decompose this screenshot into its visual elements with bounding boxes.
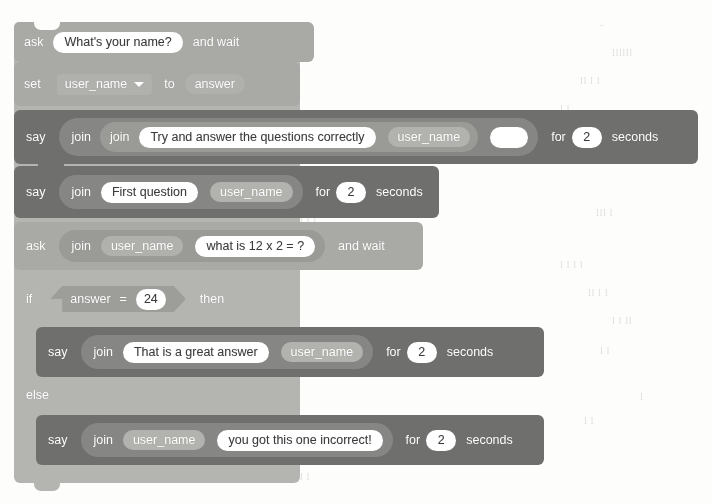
scratch-script-canvas: ask What's your name? and wait set user_… bbox=[0, 0, 712, 503]
user-name-reporter[interactable]: user_name bbox=[388, 127, 471, 147]
join-inner-keyword: join bbox=[110, 130, 129, 144]
variable-dropdown[interactable]: user_name bbox=[57, 74, 153, 95]
if-keyword: if bbox=[14, 292, 38, 306]
say-keyword: say bbox=[14, 185, 51, 199]
user-name-reporter[interactable]: user_name bbox=[123, 430, 206, 450]
ask-maths-text-input[interactable]: what is 12 x 2 = ? bbox=[195, 236, 315, 257]
say-correct-text-input[interactable]: That is a great answer bbox=[123, 342, 269, 363]
set-keyword: set bbox=[14, 77, 47, 91]
say-intro-duration-input[interactable]: 2 bbox=[572, 127, 602, 148]
say-keyword: say bbox=[36, 345, 73, 359]
ask-keyword: ask bbox=[14, 239, 51, 253]
block-if-else-header[interactable]: if answer = 24 then bbox=[14, 275, 300, 323]
say-keyword: say bbox=[36, 433, 73, 447]
answer-reporter[interactable]: answer bbox=[185, 74, 245, 94]
for-keyword: for bbox=[380, 345, 407, 359]
join-outer-empty-input[interactable] bbox=[490, 127, 528, 148]
else-keyword: else bbox=[14, 388, 55, 402]
then-keyword: then bbox=[194, 292, 230, 306]
seconds-keyword: seconds bbox=[441, 345, 500, 359]
seconds-keyword: seconds bbox=[606, 130, 665, 144]
user-name-reporter[interactable]: user_name bbox=[210, 182, 293, 202]
block-say-correct[interactable]: say join That is a great answer user_nam… bbox=[36, 327, 544, 377]
block-say-intro[interactable]: say join join Try and answer the questio… bbox=[14, 110, 698, 164]
block-say-first-question[interactable]: say join First question user_name for 2 … bbox=[14, 166, 439, 218]
if-branch-spine bbox=[14, 323, 36, 377]
join-keyword: join bbox=[93, 345, 112, 359]
operator-symbol: = bbox=[120, 292, 127, 306]
say-intro-text-input[interactable]: Try and answer the questions correctly bbox=[139, 127, 375, 148]
join-outer-keyword: join bbox=[71, 130, 90, 144]
block-ask-maths[interactable]: ask join user_name what is 12 x 2 = ? an… bbox=[14, 222, 423, 270]
join-reporter[interactable]: join That is a great answer user_name bbox=[81, 335, 373, 369]
user-name-reporter[interactable]: user_name bbox=[101, 236, 184, 256]
equals-operator[interactable]: answer = 24 bbox=[50, 286, 186, 312]
to-keyword: to bbox=[158, 77, 180, 91]
join-keyword: join bbox=[71, 185, 90, 199]
join-reporter[interactable]: join First question user_name bbox=[59, 175, 302, 209]
join-outer-reporter[interactable]: join join Try and answer the questions c… bbox=[59, 118, 538, 156]
block-ask-name[interactable]: ask What's your name? and wait bbox=[14, 22, 314, 62]
operator-left-operand: answer bbox=[70, 292, 110, 306]
if-else-foot bbox=[14, 465, 300, 483]
and-wait-keyword: and wait bbox=[332, 239, 391, 253]
block-notch bbox=[34, 22, 60, 30]
operator-right-input[interactable]: 24 bbox=[136, 289, 166, 310]
join-reporter[interactable]: join user_name you got this one incorrec… bbox=[81, 423, 392, 457]
chevron-down-icon bbox=[134, 82, 144, 87]
say-incorrect-text-input[interactable]: you got this one incorrect! bbox=[217, 430, 382, 451]
variable-name: user_name bbox=[65, 77, 128, 91]
seconds-keyword: seconds bbox=[460, 433, 519, 447]
join-reporter[interactable]: join user_name what is 12 x 2 = ? bbox=[59, 230, 325, 262]
block-set-variable[interactable]: set user_name to answer bbox=[14, 62, 300, 106]
say-first-question-text-input[interactable]: First question bbox=[101, 182, 198, 203]
seconds-keyword: seconds bbox=[370, 185, 429, 199]
for-keyword: for bbox=[310, 185, 337, 199]
block-say-incorrect[interactable]: say join user_name you got this one inco… bbox=[36, 415, 544, 465]
block-bump bbox=[34, 483, 60, 491]
say-incorrect-duration-input[interactable]: 2 bbox=[426, 430, 456, 451]
say-first-question-duration-input[interactable]: 2 bbox=[336, 182, 366, 203]
else-branch-spine bbox=[14, 413, 36, 465]
say-correct-duration-input[interactable]: 2 bbox=[407, 342, 437, 363]
user-name-reporter[interactable]: user_name bbox=[281, 342, 364, 362]
join-inner-reporter[interactable]: join Try and answer the questions correc… bbox=[100, 122, 478, 152]
ask-name-input[interactable]: What's your name? bbox=[53, 32, 182, 53]
say-keyword: say bbox=[14, 130, 51, 144]
join-keyword: join bbox=[71, 239, 90, 253]
for-keyword: for bbox=[400, 433, 427, 447]
for-keyword: for bbox=[545, 130, 572, 144]
join-keyword: join bbox=[93, 433, 112, 447]
and-wait-keyword: and wait bbox=[187, 35, 246, 49]
ask-keyword: ask bbox=[14, 35, 49, 49]
block-else-bar[interactable]: else bbox=[14, 377, 300, 413]
